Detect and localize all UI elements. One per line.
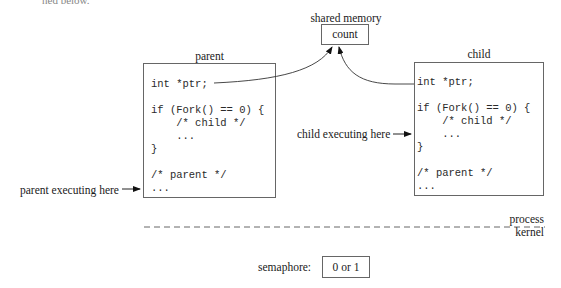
child-code-line: ... — [417, 180, 436, 193]
shared-memory-label: shared memory — [306, 12, 386, 24]
child-code-line: int *ptr; — [417, 76, 474, 89]
child-code-line: ... — [417, 128, 461, 141]
child-code-line: /* child */ — [417, 115, 512, 128]
kernel-label: kernel — [480, 226, 544, 238]
parent-executing-label: parent executing here — [20, 184, 119, 196]
parent-code-line: /* child */ — [151, 117, 246, 130]
parent-code-line: ... — [151, 130, 195, 143]
child-ptr-arrow — [339, 47, 414, 84]
shared-memory-count-box: count — [321, 24, 369, 45]
child-executing-label: child executing here — [297, 128, 390, 140]
child-code-line: /* parent */ — [417, 167, 493, 180]
parent-code-line: if (Fork() == 0) { — [151, 104, 264, 117]
parent-code-line: } — [151, 143, 157, 156]
clipped-caption-text: ned below. — [42, 0, 90, 6]
parent-code-line: int *ptr; — [151, 78, 208, 91]
child-process-box: int *ptr; if (Fork() == 0) { /* child */… — [414, 62, 544, 196]
child-title: child — [414, 48, 544, 60]
child-code-line: } — [417, 141, 423, 154]
process-label: process — [480, 213, 544, 225]
count-variable: count — [322, 25, 368, 44]
semaphore-label: semaphore: — [258, 261, 311, 273]
parent-code-line: /* parent */ — [151, 169, 227, 182]
parent-process-box: int *ptr; if (Fork() == 0) { /* child */… — [143, 63, 276, 198]
semaphore-value: 0 or 1 — [323, 257, 369, 277]
semaphore-value-box: 0 or 1 — [322, 256, 370, 278]
parent-code-line: ... — [151, 182, 170, 195]
child-code-line: if (Fork() == 0) { — [417, 102, 530, 115]
parent-title: parent — [143, 50, 276, 62]
